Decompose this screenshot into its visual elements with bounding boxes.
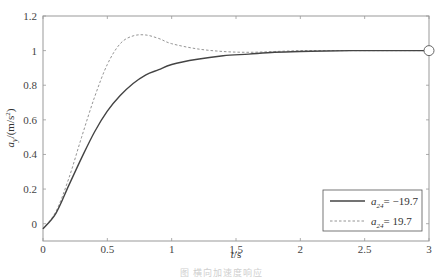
figure-caption: 图 横向加速度响应 <box>0 266 443 279</box>
y-tick-label: 0 <box>32 218 38 230</box>
y-tick-label: 0.4 <box>23 148 37 160</box>
legend: a24= −19.7 a24= 19.7 <box>323 190 422 231</box>
y-tick-label: 1.2 <box>23 10 37 22</box>
end-point-marker <box>424 46 434 56</box>
line-chart: 00.511.522.53 00.20.40.60.811.2 t/s ay/(… <box>0 0 443 279</box>
y-tick-label: 0.2 <box>23 183 37 195</box>
x-tick-label: 0.5 <box>100 243 114 255</box>
x-tick-label: 0 <box>40 243 46 255</box>
y-tick-label: 0.8 <box>23 79 37 91</box>
y-tick-labels: 00.20.40.60.811.2 <box>23 10 37 230</box>
x-tick-label: 3 <box>426 243 432 255</box>
y-tick-label: 0.6 <box>23 114 37 126</box>
y-axis-label: ay/(m/s2) <box>4 108 19 147</box>
x-tick-label: 2 <box>298 243 304 255</box>
x-tick-label: 2.5 <box>358 243 372 255</box>
x-axis-label: t/s <box>231 248 241 260</box>
y-tick-label: 1 <box>32 45 38 57</box>
x-tick-label: 1 <box>169 243 175 255</box>
